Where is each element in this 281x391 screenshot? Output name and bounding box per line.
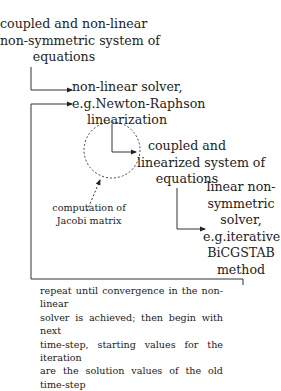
node-linear-solver: linear non- symmetric solver, e.g.iterat… xyxy=(203,179,279,278)
node-nonlinear-solver: non-linear solver, e.g.Newton-Raphson li… xyxy=(72,79,182,129)
arrow-system-to-solver xyxy=(31,67,72,90)
node-nonlinear-system: coupled and non-linear non-symmetric sys… xyxy=(0,16,128,66)
node-jacobi-computation: computation of Jacobi matrix xyxy=(44,201,134,227)
arrow-system-to-linear-solver xyxy=(177,188,205,229)
loop-note: repeat until convergence in the non-line… xyxy=(40,284,223,391)
